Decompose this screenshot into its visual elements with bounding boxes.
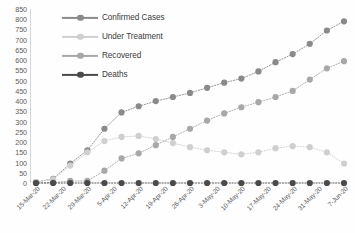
data-point	[170, 94, 176, 100]
data-point	[290, 88, 296, 94]
data-point	[307, 144, 313, 150]
data-point	[118, 155, 124, 161]
data-point	[255, 99, 261, 105]
data-point	[204, 85, 210, 91]
legend-key-icon	[62, 51, 98, 60]
series-line	[36, 136, 344, 182]
x-axis-tick-label: 31-May-20	[297, 185, 324, 212]
data-point	[84, 149, 90, 155]
data-point	[187, 90, 193, 96]
data-point	[221, 110, 227, 116]
data-point	[170, 140, 176, 146]
data-point	[272, 59, 278, 65]
data-point	[307, 41, 313, 47]
x-axis-tick-label: 29-Mar-20	[66, 185, 92, 211]
data-point	[221, 80, 227, 86]
x-axis-tick-label: 7-Jun-20	[326, 185, 349, 208]
x-axis-labels: 15-Mar-2022-Mar-2029-Mar-205-Apr-2012-Ap…	[30, 185, 352, 233]
x-axis-tick-label: 5-Apr-20	[95, 185, 118, 208]
legend-item-label: Deaths	[102, 70, 128, 79]
x-axis-tick-label: 22-Mar-20	[41, 185, 67, 211]
data-point	[204, 147, 210, 153]
data-point	[255, 149, 261, 155]
data-point	[341, 160, 347, 166]
legend-item-label: Under Treatment	[102, 32, 163, 41]
data-point	[255, 68, 261, 74]
data-point	[153, 98, 159, 104]
x-axis-tick-label: 10-May-20	[220, 185, 247, 212]
data-point	[170, 134, 176, 140]
data-point	[324, 65, 330, 71]
legend-marker-icon	[77, 14, 84, 21]
data-point	[67, 163, 73, 169]
data-point	[324, 149, 330, 155]
data-point	[101, 168, 107, 174]
data-point	[118, 109, 124, 115]
data-point	[153, 136, 159, 142]
x-axis-tick-label: 24-May-20	[271, 185, 298, 212]
data-point	[221, 149, 227, 155]
legend-item-label: Recovered	[102, 51, 141, 60]
legend-marker-icon	[77, 52, 84, 59]
data-point	[341, 18, 347, 24]
data-point	[101, 126, 107, 132]
legend-item[interactable]: Under Treatment	[62, 27, 212, 46]
legend-marker-icon	[77, 71, 84, 78]
legend-item[interactable]: Confirmed Cases	[62, 8, 212, 27]
data-point	[118, 134, 124, 140]
data-point	[187, 126, 193, 132]
data-point	[238, 151, 244, 157]
data-point	[101, 138, 107, 144]
legend-marker-icon	[77, 33, 84, 40]
x-axis-tick-label: 12-Apr-20	[119, 185, 144, 210]
data-point	[238, 104, 244, 110]
legend-item[interactable]: Deaths	[62, 65, 212, 84]
legend-key-icon	[62, 32, 98, 41]
data-point	[324, 27, 330, 33]
x-axis-tick-label: 26-Apr-20	[170, 185, 195, 210]
data-point	[187, 144, 193, 150]
data-point	[153, 142, 159, 148]
series-under-treatment	[33, 133, 347, 185]
data-point	[136, 103, 142, 109]
line-chart: 0501001502002503003504004505005506006507…	[0, 0, 355, 233]
data-point	[290, 51, 296, 57]
data-point	[341, 58, 347, 64]
data-point	[307, 77, 313, 83]
legend-item-label: Confirmed Cases	[102, 13, 165, 22]
chart-legend: Confirmed CasesUnder TreatmentRecoveredD…	[62, 8, 212, 84]
data-point	[238, 76, 244, 82]
data-point	[136, 150, 142, 156]
legend-item[interactable]: Recovered	[62, 46, 212, 65]
legend-key-icon	[62, 13, 98, 22]
legend-key-icon	[62, 70, 98, 79]
x-axis-tick-label: 19-Apr-20	[144, 185, 169, 210]
x-axis-tick-label: 17-May-20	[245, 185, 272, 212]
data-point	[136, 133, 142, 139]
data-point	[272, 94, 278, 100]
data-point	[272, 145, 278, 151]
data-point	[204, 117, 210, 123]
x-axis-tick-label: 3-May-20	[197, 185, 221, 209]
data-point	[290, 143, 296, 149]
